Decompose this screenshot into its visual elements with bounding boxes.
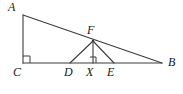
vertex-dots-group (92, 40, 95, 43)
vertex-label-x: X (86, 66, 93, 78)
vertex-label-c: C (13, 66, 21, 78)
geometry-canvas (0, 0, 183, 94)
vertex-dot-f (92, 40, 95, 43)
geometry-figure: A C B F D X E (0, 0, 183, 94)
vertex-label-b: B (168, 56, 175, 68)
vertex-label-a: A (8, 1, 15, 13)
right-angle-marks-group (23, 56, 96, 63)
vertex-label-e: E (107, 66, 114, 78)
vertex-label-f: F (87, 24, 94, 36)
segment-fd (70, 41, 93, 63)
vertex-label-d: D (64, 66, 73, 78)
right-angle-mark-c (23, 56, 30, 63)
